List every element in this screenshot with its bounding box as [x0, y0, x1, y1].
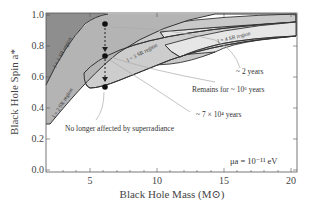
- y-tick-02: 0.2: [32, 133, 45, 144]
- y-tick-10: 1.0: [32, 9, 45, 20]
- trajectory-point-2: [102, 53, 108, 59]
- annotation-1e6: Remains for ~ 10⁶ years: [192, 85, 265, 94]
- chart: l = 1 SR region l = 2 SR region l = 3 SR…: [0, 0, 315, 209]
- y-tick-06: 0.6: [32, 71, 45, 82]
- param-label: μa = 10⁻¹¹ eV: [230, 156, 278, 166]
- x-tick-10: 10: [152, 175, 162, 186]
- annotation-none: No longer affected by superradiance: [65, 124, 175, 133]
- y-tick-0: 0.0: [32, 164, 45, 175]
- annotation-2yr: ~ 2 years: [236, 67, 263, 76]
- annotation-7e4: ~ 7 × 10⁴ years: [196, 110, 242, 119]
- y-axis-label: Black Hole Spin a*: [8, 49, 20, 135]
- x-tick-20: 20: [286, 175, 296, 186]
- x-tick-5: 5: [88, 175, 93, 186]
- y-tick-08: 0.8: [32, 40, 45, 51]
- x-tick-15: 15: [219, 175, 229, 186]
- y-tick-04: 0.4: [32, 102, 45, 113]
- trajectory-point-3: [102, 84, 108, 90]
- x-axis-label: Black Hole Mass (M⊙): [120, 188, 225, 201]
- trajectory-point-1: [102, 21, 108, 27]
